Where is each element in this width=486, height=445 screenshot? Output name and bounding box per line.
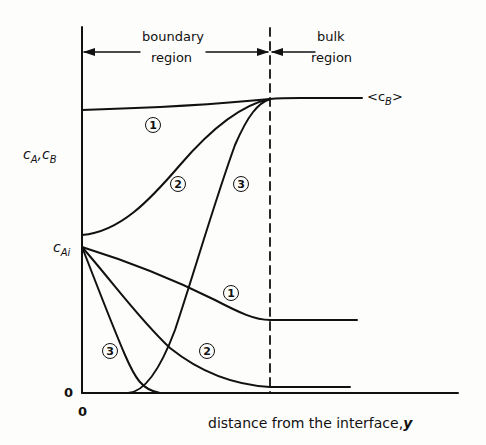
ca-curve-2 <box>82 247 350 387</box>
concentration-profile-figure: boundary region bulk region <cB> cA,cB c… <box>0 0 486 445</box>
arrowhead-left <box>83 48 95 56</box>
cb-bulk-label: <cB> <box>367 90 403 103</box>
boundary-region-label: boundary <box>142 30 204 43</box>
ca-curve-3 <box>82 247 160 393</box>
y-zero-label: 0 <box>64 386 73 399</box>
bulk-region-label-line2: region <box>311 51 352 64</box>
marker-cb-3: 3 <box>233 176 249 192</box>
marker-ca-1: 1 <box>223 285 239 301</box>
marker-ca-3: 3 <box>102 343 118 359</box>
marker-cb-1: 1 <box>145 117 161 133</box>
arrowhead-left-bulk <box>271 48 283 56</box>
arrowhead-right-boundary <box>257 48 269 56</box>
cb-curve-1 <box>82 99 270 110</box>
ca-curve-1 <box>82 247 357 320</box>
cai-tick-label: cAi <box>53 240 70 254</box>
y-axis-label: cA,cB <box>23 147 57 161</box>
marker-ca-2: 2 <box>199 343 215 359</box>
x-zero-label: 0 <box>78 405 87 418</box>
marker-cb-2: 2 <box>170 176 186 192</box>
boundary-region-label-line2: region <box>151 51 192 64</box>
cb-bulk-plateau <box>270 98 362 99</box>
bulk-region-label: bulk <box>317 30 345 43</box>
x-axis-label: distance from the interface,y <box>208 416 412 430</box>
cb-curve-2 <box>82 99 270 235</box>
plot-canvas <box>0 0 486 445</box>
